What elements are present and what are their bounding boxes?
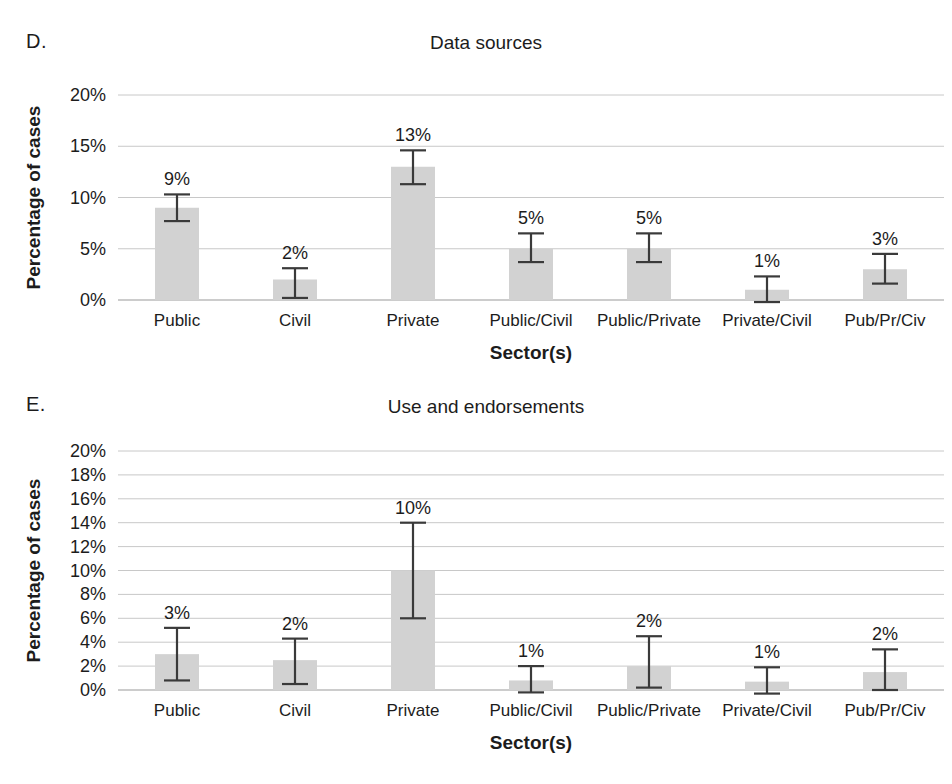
x-category-label: Private/Civil bbox=[722, 701, 812, 720]
chart-e: 0%2%4%6%8%10%12%14%16%18%20%Percentage o… bbox=[0, 376, 952, 784]
y-tick-label: 20% bbox=[70, 85, 106, 105]
y-tick-label: 8% bbox=[80, 584, 106, 604]
bar-group: 13%Private bbox=[387, 125, 440, 330]
x-axis-title: Sector(s) bbox=[490, 732, 572, 753]
bar-group: 1%Public/Civil bbox=[489, 641, 572, 720]
bar-group: 2%Pub/Pr/Civ bbox=[844, 624, 926, 720]
bar-value-label: 3% bbox=[872, 229, 898, 249]
x-category-label: Pub/Pr/Civ bbox=[844, 701, 926, 720]
bar-value-label: 10% bbox=[395, 498, 431, 518]
x-category-label: Private bbox=[387, 311, 440, 330]
bar-value-label: 2% bbox=[872, 624, 898, 644]
x-category-label: Public/Private bbox=[597, 311, 701, 330]
panel-d: D. Data sources 0%5%10%15%20%Percentage … bbox=[0, 0, 952, 392]
x-category-label: Civil bbox=[279, 311, 311, 330]
x-category-label: Private bbox=[387, 701, 440, 720]
x-category-label: Civil bbox=[279, 701, 311, 720]
chart-d: 0%5%10%15%20%Percentage of cases9%Public… bbox=[0, 0, 952, 392]
x-category-label: Public/Civil bbox=[489, 311, 572, 330]
bar-group: 2%Civil bbox=[273, 614, 317, 720]
x-category-label: Pub/Pr/Civ bbox=[844, 311, 926, 330]
bar-value-label: 1% bbox=[754, 642, 780, 662]
y-tick-label: 4% bbox=[80, 632, 106, 652]
y-tick-label: 10% bbox=[70, 188, 106, 208]
y-axis-title: Percentage of cases bbox=[23, 106, 44, 290]
bar-group: 1%Private/Civil bbox=[722, 642, 812, 720]
y-tick-label: 20% bbox=[70, 441, 106, 461]
bar-value-label: 2% bbox=[636, 611, 662, 631]
x-axis-title: Sector(s) bbox=[490, 342, 572, 363]
y-tick-label: 18% bbox=[70, 465, 106, 485]
x-category-label: Public/Private bbox=[597, 701, 701, 720]
bar-value-label: 5% bbox=[518, 208, 544, 228]
x-category-label: Private/Civil bbox=[722, 311, 812, 330]
bar-value-label: 5% bbox=[636, 208, 662, 228]
bar-value-label: 1% bbox=[754, 251, 780, 271]
y-tick-label: 14% bbox=[70, 513, 106, 533]
bar-value-label: 9% bbox=[164, 169, 190, 189]
panel-e: E. Use and endorsements 0%2%4%6%8%10%12%… bbox=[0, 376, 952, 784]
x-category-label: Public bbox=[154, 311, 201, 330]
bar-value-label: 2% bbox=[282, 614, 308, 634]
bar-group: 5%Public/Civil bbox=[489, 208, 572, 330]
y-tick-label: 6% bbox=[80, 608, 106, 628]
y-tick-label: 5% bbox=[80, 239, 106, 259]
bar-group: 10%Private bbox=[387, 498, 440, 720]
x-category-label: Public/Civil bbox=[489, 701, 572, 720]
bar-group: 3%Pub/Pr/Civ bbox=[844, 229, 926, 330]
y-tick-label: 0% bbox=[80, 680, 106, 700]
bar-value-label: 2% bbox=[282, 243, 308, 263]
y-axis-title: Percentage of cases bbox=[23, 479, 44, 663]
y-tick-label: 2% bbox=[80, 656, 106, 676]
y-tick-label: 15% bbox=[70, 136, 106, 156]
y-tick-label: 16% bbox=[70, 489, 106, 509]
bar-group: 1%Private/Civil bbox=[722, 251, 812, 330]
x-category-label: Public bbox=[154, 701, 201, 720]
bar-value-label: 3% bbox=[164, 603, 190, 623]
bar-value-label: 13% bbox=[395, 125, 431, 145]
bar-private bbox=[391, 167, 435, 300]
bar-value-label: 1% bbox=[518, 641, 544, 661]
bar-group: 3%Public bbox=[154, 603, 201, 720]
bar-group: 9%Public bbox=[154, 169, 201, 330]
y-tick-label: 12% bbox=[70, 537, 106, 557]
figure-page: D. Data sources 0%5%10%15%20%Percentage … bbox=[0, 0, 952, 784]
bar-group: 5%Public/Private bbox=[597, 208, 701, 330]
y-tick-label: 0% bbox=[80, 290, 106, 310]
bar-group: 2%Civil bbox=[273, 243, 317, 330]
y-tick-label: 10% bbox=[70, 561, 106, 581]
